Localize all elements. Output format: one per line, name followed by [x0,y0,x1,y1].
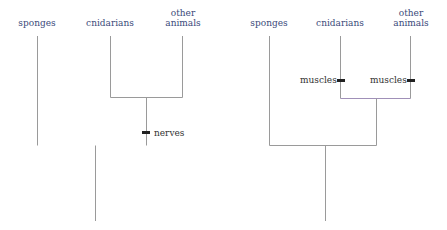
taxon-label-sponges: sponges [18,18,55,28]
muscles-marker-other-animals [407,79,415,82]
muscles-marker-cnidarians [337,79,345,82]
character-label-muscles-other-animals: muscles [370,75,407,85]
label-line: other [165,8,200,18]
character-label-nerves: nerves [154,128,184,138]
right-cladogram [270,36,411,221]
taxon-label-other-animals: other animals [393,8,428,28]
label-line: animals [393,18,428,28]
label-line: animals [165,18,200,28]
taxon-label-other-animals: other animals [165,8,200,28]
cladogram-lines [0,0,447,230]
character-label-muscles-cnidarians: muscles [300,75,337,85]
taxon-label-cnidarians: cnidarians [86,18,134,28]
taxon-label-cnidarians: cnidarians [316,18,364,28]
taxon-label-sponges: sponges [250,18,287,28]
label-line: other [393,8,428,18]
nerves-marker [142,131,150,134]
